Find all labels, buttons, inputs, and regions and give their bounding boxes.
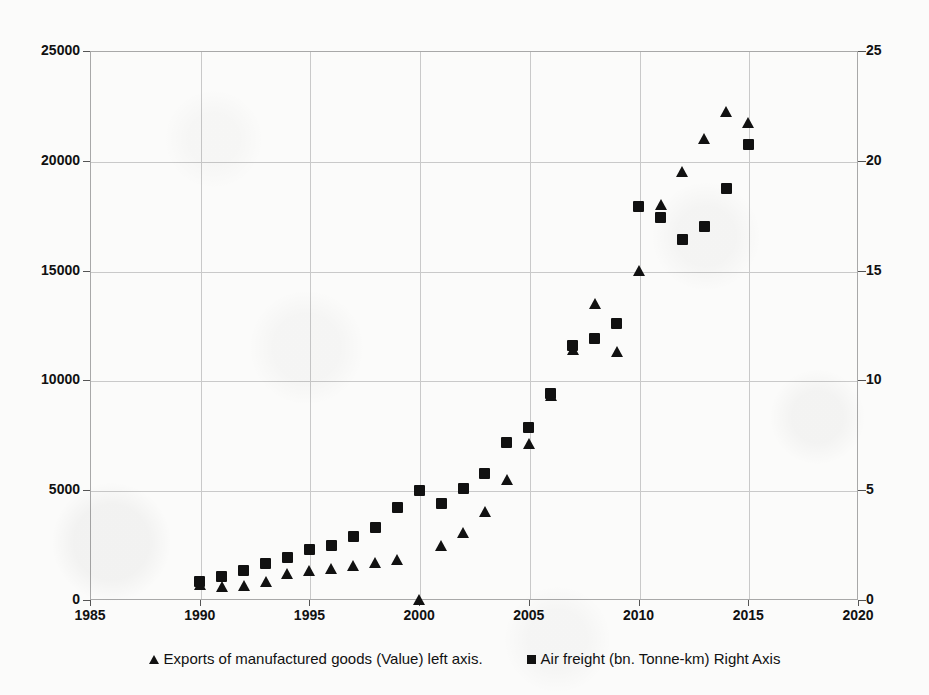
data-point-exports [633,265,645,276]
data-point-exports [260,576,272,587]
data-point-air-freight [304,544,315,555]
y-axis-left-tick-label: 10000 [0,371,80,387]
legend-item-air-freight: Air freight (bn. Tonne-km) Right Axis [527,650,781,667]
data-point-exports [238,580,250,591]
data-point-exports [216,581,228,592]
data-point-air-freight [216,571,227,582]
x-axis-tick-mark [309,600,310,606]
data-point-air-freight [194,576,205,587]
y-axis-right-tick-label: 15 [866,262,916,278]
data-point-exports [413,594,425,605]
x-axis-tick-label: 2020 [818,607,898,623]
data-point-air-freight [458,483,469,494]
data-point-air-freight [611,318,622,329]
data-point-exports [720,106,732,117]
legend-label-exports: Exports of manufactured goods (Value) le… [164,650,483,667]
gridline-horizontal [91,381,857,382]
y-axis-left-tick-mark [83,51,90,52]
x-axis-tick-mark [529,600,530,606]
data-point-air-freight [501,437,512,448]
data-point-air-freight [523,422,534,433]
data-point-air-freight [699,221,710,232]
y-axis-left-tick-mark [83,271,90,272]
data-point-exports [676,166,688,177]
y-axis-left-tick-mark [83,380,90,381]
x-axis-tick-label: 2015 [708,607,788,623]
data-point-air-freight [545,388,556,399]
data-point-exports [325,563,337,574]
gridline-vertical [530,52,531,599]
data-point-exports [457,527,469,538]
data-point-air-freight [238,565,249,576]
data-point-air-freight [567,340,578,351]
x-axis-tick-label: 2010 [599,607,679,623]
data-point-exports [435,540,447,551]
data-point-air-freight [633,201,644,212]
data-point-exports [369,557,381,568]
y-axis-right-tick-mark [858,271,866,272]
data-point-exports [611,346,623,357]
data-point-air-freight [414,485,425,496]
y-axis-left-tick-mark [83,161,90,162]
gridline-vertical [749,52,750,599]
plot-area [90,51,858,600]
data-point-exports [303,565,315,576]
data-point-air-freight [260,558,271,569]
y-axis-right-tick-mark [858,490,866,491]
x-axis-tick-label: 1985 [50,607,130,623]
data-point-exports [501,474,513,485]
y-axis-right-tick-label: 25 [866,42,916,58]
data-point-air-freight [677,234,688,245]
data-point-air-freight [655,212,666,223]
y-axis-right-tick-label: 5 [866,481,916,497]
data-point-air-freight [282,552,293,563]
gridline-horizontal [91,162,857,163]
data-point-air-freight [370,522,381,533]
square-marker-icon [527,655,536,664]
y-axis-right-tick-label: 10 [866,371,916,387]
y-axis-right-tick-mark [858,380,866,381]
data-point-air-freight [479,468,490,479]
y-axis-right-tick-mark [858,51,866,52]
data-point-air-freight [589,333,600,344]
x-axis-tick-mark [748,600,749,606]
data-point-exports [698,133,710,144]
data-point-exports [523,438,535,449]
data-point-air-freight [348,531,359,542]
legend-item-exports: Exports of manufactured goods (Value) le… [149,650,483,667]
y-axis-left-tick-label: 0 [0,591,80,607]
y-axis-left-tick-mark [83,600,90,601]
data-point-air-freight [392,502,403,513]
x-axis-tick-mark [200,600,201,606]
x-axis-tick-label: 2005 [489,607,569,623]
triangle-marker-icon [149,655,159,664]
x-axis-tick-label: 2000 [379,607,459,623]
gridline-horizontal [91,272,857,273]
y-axis-left-tick-label: 20000 [0,152,80,168]
y-axis-left-tick-mark [83,490,90,491]
data-point-air-freight [743,139,754,150]
scatter-chart: 0500010000150002000025000 0510152025 198… [0,0,929,695]
y-axis-left-tick-label: 25000 [0,42,80,58]
data-point-exports [655,199,667,210]
gridline-vertical [310,52,311,599]
y-axis-right-tick-label: 0 [866,591,916,607]
x-axis-tick-mark [639,600,640,606]
x-axis-tick-mark [858,600,859,606]
data-point-exports [281,568,293,579]
y-axis-right-tick-label: 20 [866,152,916,168]
data-point-air-freight [721,183,732,194]
gridline-vertical [201,52,202,599]
data-point-exports [479,506,491,517]
y-axis-left-tick-label: 5000 [0,481,80,497]
data-point-exports [391,554,403,565]
gridline-vertical [420,52,421,599]
y-axis-right-tick-mark [858,161,866,162]
gridline-vertical [640,52,641,599]
y-axis-left-tick-label: 15000 [0,262,80,278]
data-point-exports [589,298,601,309]
data-point-exports [347,560,359,571]
data-point-exports [742,117,754,128]
y-axis-right-tick-mark [858,600,866,601]
gridline-horizontal [91,491,857,492]
